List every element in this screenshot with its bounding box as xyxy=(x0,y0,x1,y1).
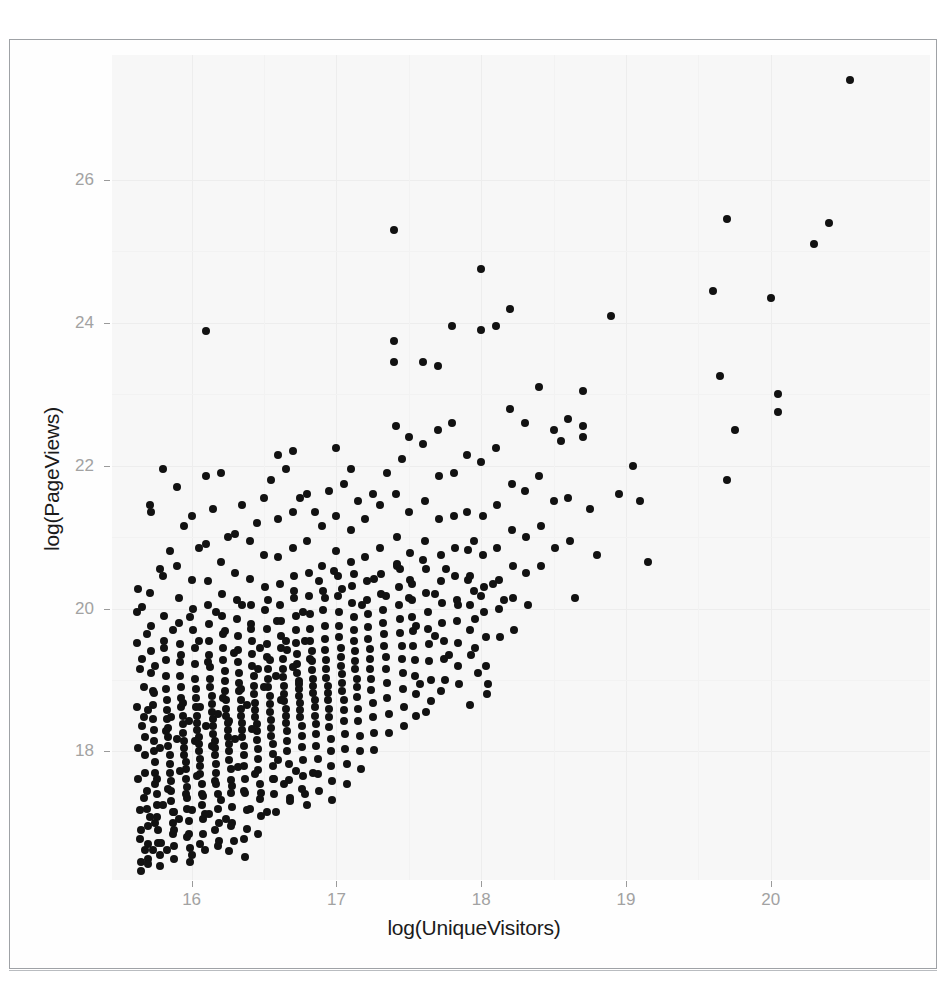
scatter-point xyxy=(343,760,351,768)
scatter-point xyxy=(399,669,407,677)
scatter-point xyxy=(453,617,461,625)
scatter-point xyxy=(343,780,351,788)
scatter-point xyxy=(482,662,490,670)
scatter-point xyxy=(319,606,327,614)
gridline-horizontal xyxy=(112,323,930,324)
scatter-point xyxy=(455,680,463,688)
scatter-point xyxy=(134,775,142,783)
scatter-point xyxy=(723,215,731,223)
scatter-point xyxy=(350,570,358,578)
scatter-point xyxy=(466,601,474,609)
scatter-point xyxy=(421,497,429,505)
gridline-horizontal-minor xyxy=(112,251,930,252)
scatter-point xyxy=(219,656,227,664)
scatter-point xyxy=(163,846,171,854)
scatter-point xyxy=(211,826,219,834)
scatter-point xyxy=(267,724,275,732)
scatter-point xyxy=(283,727,291,735)
scatter-point xyxy=(293,650,301,658)
scatter-point xyxy=(163,696,171,704)
scatter-point xyxy=(217,796,225,804)
scatter-point xyxy=(269,775,277,783)
scatter-point xyxy=(234,658,242,666)
y-tick-mark xyxy=(104,609,110,610)
scatter-point xyxy=(264,596,272,604)
scatter-point xyxy=(256,644,264,652)
scatter-point xyxy=(466,626,474,634)
scatter-point xyxy=(274,515,282,523)
scatter-point xyxy=(338,679,346,687)
gridline-horizontal xyxy=(112,751,930,752)
scatter-point xyxy=(424,608,432,616)
scatter-point xyxy=(231,530,239,538)
x-tick-label: 19 xyxy=(616,890,635,910)
scatter-point xyxy=(238,733,246,741)
scatter-point xyxy=(321,622,329,630)
scatter-point xyxy=(422,589,430,597)
y-tick-label: 26 xyxy=(34,170,94,190)
scatter-point xyxy=(340,480,348,488)
scatter-point xyxy=(162,685,170,693)
scatter-point xyxy=(356,747,364,755)
scatter-point xyxy=(191,644,199,652)
scatter-point xyxy=(451,572,459,580)
scatter-point xyxy=(199,830,207,838)
scatter-point xyxy=(175,619,183,627)
scatter-plot-figure: 1617181920 1820222426 log(UniqueVisitors… xyxy=(0,0,948,991)
scatter-point xyxy=(405,508,413,516)
scatter-point xyxy=(141,751,149,759)
scatter-point xyxy=(186,858,194,866)
scatter-point xyxy=(390,358,398,366)
scatter-point xyxy=(615,490,623,498)
scatter-point xyxy=(267,476,275,484)
scatter-point xyxy=(636,497,644,505)
scatter-point xyxy=(306,655,314,663)
scatter-point xyxy=(230,837,238,845)
scatter-point xyxy=(480,583,488,591)
scatter-point xyxy=(315,787,323,795)
scatter-point xyxy=(206,675,214,683)
scatter-point xyxy=(285,760,293,768)
gridline-horizontal-minor xyxy=(112,394,930,395)
gridline-horizontal xyxy=(112,466,930,467)
scatter-point xyxy=(150,689,158,697)
scatter-point xyxy=(321,635,329,643)
x-tick-mark xyxy=(481,881,482,887)
scatter-point xyxy=(254,745,262,753)
scatter-point xyxy=(537,562,545,570)
scatter-point xyxy=(437,551,445,559)
scatter-point xyxy=(290,587,298,595)
scatter-point xyxy=(419,556,427,564)
scatter-point xyxy=(425,640,433,648)
scatter-point xyxy=(361,515,369,523)
scatter-point xyxy=(479,512,487,520)
scatter-point xyxy=(136,835,144,843)
scatter-point xyxy=(382,665,390,673)
scatter-point xyxy=(260,551,268,559)
scatter-point xyxy=(205,620,213,628)
scatter-point xyxy=(279,673,287,681)
scatter-point xyxy=(369,713,377,721)
scatter-point xyxy=(254,830,262,838)
scatter-point xyxy=(412,712,420,720)
scatter-point xyxy=(405,433,413,441)
scatter-point xyxy=(225,847,233,855)
scatter-point xyxy=(315,577,323,585)
scatter-point xyxy=(454,601,462,609)
scatter-point xyxy=(150,737,158,745)
scatter-point xyxy=(537,522,545,530)
scatter-point xyxy=(442,565,450,573)
scatter-point xyxy=(337,662,345,670)
scatter-point xyxy=(160,612,168,620)
scatter-point xyxy=(147,669,155,677)
scatter-point xyxy=(238,501,246,509)
scatter-point xyxy=(225,747,233,755)
scatter-point xyxy=(248,650,256,658)
scatter-point xyxy=(282,637,290,645)
scatter-point xyxy=(254,755,262,763)
scatter-point xyxy=(466,701,474,709)
x-tick-mark xyxy=(771,881,772,887)
scatter-point xyxy=(149,715,157,723)
scatter-point xyxy=(140,713,148,721)
scatter-point xyxy=(196,762,204,770)
